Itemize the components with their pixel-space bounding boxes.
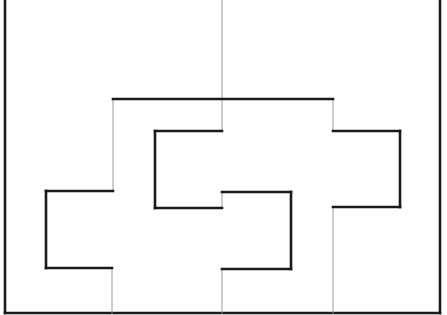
maze-diagram bbox=[0, 0, 447, 315]
